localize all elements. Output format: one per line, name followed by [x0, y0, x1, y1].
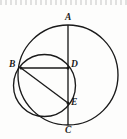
point-label-A: A: [65, 13, 71, 23]
vertex-dot-D: [67, 67, 70, 70]
point-label-B: B: [9, 60, 15, 70]
geometry-canvas: [0, 0, 127, 139]
point-label-D: D: [71, 60, 78, 70]
vertex-dot-E: [67, 102, 70, 105]
segment-BE: [21, 68, 68, 103]
vertex-dot-B: [20, 67, 23, 70]
point-label-C: C: [65, 126, 71, 136]
point-label-E: E: [71, 98, 77, 108]
geometry-figure: A B D E C: [0, 0, 127, 139]
